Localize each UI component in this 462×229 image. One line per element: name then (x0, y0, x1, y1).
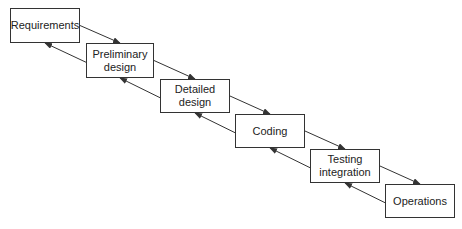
waterfall-diagram: Requirements Preliminary design Detailed… (0, 0, 462, 229)
forward-arrow (380, 166, 420, 184)
stage-requirements: Requirements (10, 8, 80, 43)
feedback-arrow (345, 183, 385, 203)
forward-arrow (230, 96, 270, 114)
feedback-arrow (120, 78, 160, 98)
stage-detailed-design: Detailed design (160, 79, 230, 113)
stage-operations: Operations (385, 184, 455, 218)
feedback-arrow (195, 113, 235, 133)
feedback-arrow (45, 43, 86, 62)
stage-testing-integration: Testing integration (310, 149, 380, 183)
stage-preliminary-design: Preliminary design (86, 43, 154, 78)
feedback-arrow (270, 148, 310, 168)
stage-coding: Coding (235, 114, 305, 148)
forward-arrow (305, 131, 345, 149)
forward-arrow (80, 26, 120, 44)
forward-arrow (154, 61, 195, 80)
